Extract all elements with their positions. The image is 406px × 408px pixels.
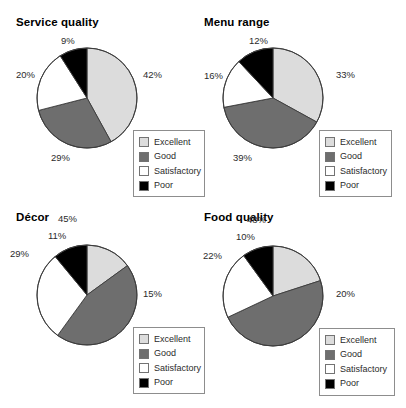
legend-label: Excellent (340, 138, 377, 147)
chart-title-menu-range: Menu range (204, 16, 270, 28)
legend-label: Good (154, 152, 176, 161)
legend-swatch-excellent-icon (325, 335, 335, 345)
legend-swatch-good-icon (325, 152, 335, 162)
legend-item-good[interactable]: Good (139, 150, 198, 165)
legend-swatch-satisfactory-icon (139, 363, 149, 373)
chart-panel-food-quality: Food quality 20% 48% 22% 10% ExcellentGo… (203, 204, 406, 408)
legend-swatch-poor-icon (325, 181, 335, 191)
legend-item-excellent[interactable]: Excellent (325, 135, 385, 150)
pie-decor (36, 244, 138, 346)
legend-label: Excellent (154, 138, 191, 147)
legend-swatch-satisfactory-icon (325, 166, 335, 176)
slice-label-poor: 11% (48, 231, 66, 241)
legend-swatch-poor-icon (139, 378, 149, 388)
chart-title-decor: Décor (16, 211, 49, 223)
slice-label-satisfactory: 20% (16, 70, 35, 80)
legend-item-good[interactable]: Good (139, 347, 198, 362)
slice-label-satisfactory: 22% (203, 251, 222, 261)
slice-label-good: 48% (247, 215, 266, 225)
legend-service-quality: ExcellentGoodSatisfactoryPoor (133, 130, 205, 197)
legend-item-excellent[interactable]: Excellent (139, 135, 198, 150)
legend-label: Satisfactory (154, 364, 201, 373)
legend-swatch-poor-icon (139, 181, 149, 191)
chart-panel-menu-range: Menu range 33% 39% 16% 12% ExcellentGood… (203, 0, 406, 204)
legend-item-poor[interactable]: Poor (139, 376, 198, 391)
slice-label-good: 29% (51, 153, 70, 163)
legend-item-satisfactory[interactable]: Satisfactory (139, 361, 198, 376)
legend-item-satisfactory[interactable]: Satisfactory (139, 164, 198, 179)
slice-label-satisfactory: 16% (204, 71, 223, 81)
slice-label-good: 45% (58, 214, 77, 224)
pie-chart-grid: Service quality 42% 29% 20% 9% Excellent… (0, 0, 406, 408)
legend-swatch-good-icon (139, 152, 149, 162)
chart-panel-service-quality: Service quality 42% 29% 20% 9% Excellent… (0, 0, 203, 204)
legend-item-poor[interactable]: Poor (325, 377, 388, 392)
slice-label-excellent: 20% (336, 289, 355, 299)
slice-label-satisfactory: 29% (10, 249, 29, 259)
slice-label-poor: 12% (249, 36, 268, 46)
slice-label-excellent: 33% (336, 70, 355, 80)
pie-food-quality (222, 245, 324, 347)
legend-label: Good (154, 349, 176, 358)
legend-label: Poor (154, 181, 173, 190)
slice-label-excellent: 15% (143, 289, 162, 299)
legend-swatch-good-icon (325, 350, 335, 360)
pie-menu-range (222, 47, 324, 149)
legend-menu-range: ExcellentGoodSatisfactoryPoor (319, 130, 392, 197)
legend-swatch-good-icon (139, 349, 149, 359)
legend-label: Good (340, 152, 362, 161)
legend-label: Satisfactory (340, 365, 387, 374)
legend-item-excellent[interactable]: Excellent (325, 333, 388, 348)
chart-title-service-quality: Service quality (16, 16, 99, 28)
legend-item-good[interactable]: Good (325, 150, 385, 165)
legend-item-poor[interactable]: Poor (139, 179, 198, 194)
legend-label: Excellent (154, 335, 191, 344)
legend-swatch-excellent-icon (139, 334, 149, 344)
slice-label-good: 39% (233, 153, 252, 163)
legend-swatch-excellent-icon (139, 137, 149, 147)
pie-service-quality (36, 47, 138, 149)
legend-swatch-satisfactory-icon (139, 166, 149, 176)
legend-label: Satisfactory (340, 167, 387, 176)
slice-label-poor: 9% (61, 36, 75, 46)
legend-item-satisfactory[interactable]: Satisfactory (325, 362, 388, 377)
legend-item-satisfactory[interactable]: Satisfactory (325, 164, 385, 179)
slice-label-excellent: 42% (143, 70, 162, 80)
legend-swatch-satisfactory-icon (325, 364, 335, 374)
legend-label: Good (340, 350, 362, 359)
legend-item-poor[interactable]: Poor (325, 179, 385, 194)
legend-swatch-excellent-icon (325, 137, 335, 147)
legend-decor: ExcellentGoodSatisfactoryPoor (133, 327, 205, 394)
chart-panel-decor: Décor 15% 45% 29% 11% ExcellentGoodSatis… (0, 204, 203, 408)
legend-food-quality: ExcellentGoodSatisfactoryPoor (319, 328, 395, 396)
legend-label: Satisfactory (154, 167, 201, 176)
legend-item-good[interactable]: Good (325, 348, 388, 363)
legend-label: Excellent (340, 336, 377, 345)
legend-swatch-poor-icon (325, 379, 335, 389)
slice-label-poor: 10% (236, 232, 255, 242)
legend-label: Poor (154, 378, 173, 387)
legend-item-excellent[interactable]: Excellent (139, 332, 198, 347)
legend-label: Poor (340, 181, 359, 190)
legend-label: Poor (340, 379, 359, 388)
